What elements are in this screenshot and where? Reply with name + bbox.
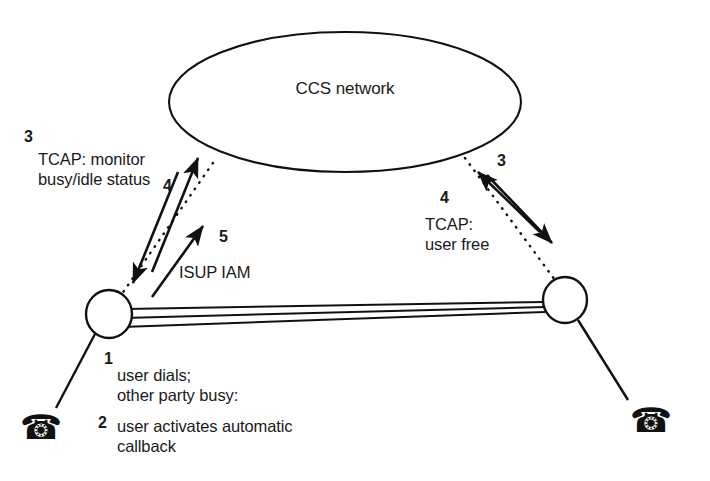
figure-canvas: CCS network 3 TCAP: monitor busy/idle st… — [0, 0, 710, 481]
signaling-link-right — [465, 158, 558, 284]
step3-left-text-line1: TCAP: monitor — [38, 150, 145, 169]
subscriber-line-right — [578, 320, 628, 400]
ccs-network-ellipse — [169, 32, 521, 172]
step2-text-line1: user activates automatic — [117, 417, 293, 436]
telephone-icon-left: ☎ — [20, 410, 62, 444]
step1-number: 1 — [104, 350, 113, 369]
step2-text-line2: callback — [117, 437, 176, 456]
subscriber-line-left — [56, 334, 95, 408]
diagram-graphics — [0, 0, 710, 481]
telephone-icon-right: ☎ — [630, 403, 672, 437]
step4-right-number: 4 — [440, 189, 449, 208]
step1-text-line1: user dials; — [117, 366, 191, 385]
ccs-network-label: CCS network — [245, 79, 445, 99]
step4-right-text-line1: TCAP: — [425, 215, 473, 234]
arrow-step5-isup-iam — [152, 226, 203, 297]
arrow-step3-left — [152, 158, 198, 272]
arrow-step3-right — [478, 172, 540, 232]
trunk-group-lines — [122, 302, 545, 327]
arrow-step4-right — [487, 175, 552, 243]
terminating-switch-node — [543, 277, 587, 323]
step5-isup-iam-label: ISUP IAM — [179, 263, 250, 282]
step3-right-number: 3 — [497, 152, 506, 171]
step4-right-text-line2: user free — [425, 235, 489, 254]
step3-left-number: 3 — [24, 128, 33, 147]
step4-left-number: 4 — [163, 177, 172, 196]
step3-left-text-line2: busy/idle status — [38, 170, 150, 189]
originating-switch-node — [86, 290, 132, 338]
step5-number: 5 — [219, 228, 228, 247]
step2-number: 2 — [98, 414, 107, 433]
step1-text-line2: other party busy: — [117, 386, 238, 405]
